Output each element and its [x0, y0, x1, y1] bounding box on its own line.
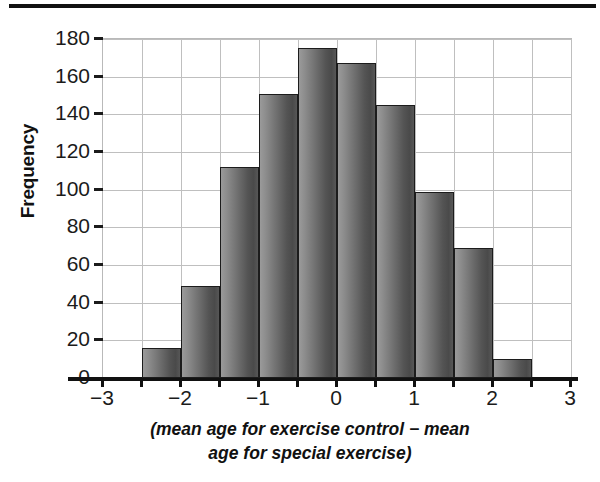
y-axis-tick-label: 40 [26, 291, 90, 312]
gridline-vertical [571, 39, 572, 378]
y-axis-tick-label: 100 [26, 178, 90, 199]
y-axis-tick [94, 188, 103, 191]
x-axis-tick [530, 377, 533, 387]
histogram-bar [142, 348, 181, 378]
histogram-bar [220, 167, 259, 378]
y-axis-tick [94, 225, 103, 228]
y-axis-tick-label: 60 [26, 253, 90, 274]
bars-layer [103, 39, 571, 378]
histogram-bar [298, 48, 337, 378]
y-axis-tick-label: 20 [26, 328, 90, 349]
y-axis-tick-label: 180 [26, 27, 90, 48]
y-axis-tick [94, 37, 103, 40]
histogram-bar [259, 94, 298, 378]
y-axis-tick [94, 75, 103, 78]
y-axis-tick [94, 112, 103, 115]
histogram-bar [337, 63, 376, 378]
y-axis-tick-label: 160 [26, 65, 90, 86]
histogram-bar [454, 248, 493, 378]
x-axis-caption-line-1: (mean age for exercise control − mean [60, 418, 560, 442]
x-axis-tick-label: 3 [540, 386, 600, 409]
x-axis-tick [374, 377, 377, 387]
x-axis-tick-label: −3 [72, 386, 132, 409]
x-axis-tick-label: −2 [150, 386, 210, 409]
top-rule-divider [9, 4, 596, 8]
y-axis-tick-label: 120 [26, 140, 90, 161]
histogram-bar [415, 192, 454, 378]
y-axis-tick [94, 263, 103, 266]
plot-area [102, 38, 572, 378]
x-axis-tick-label: 2 [462, 386, 522, 409]
y-axis-tick [94, 150, 103, 153]
x-axis-tick-label: 0 [306, 386, 366, 409]
y-axis-tick-label: 140 [26, 102, 90, 123]
y-axis-tick-labels: 020406080100120140160180 [22, 0, 90, 482]
x-axis-caption: (mean age for exercise control − mean ag… [60, 418, 560, 465]
x-axis-caption-line-2: age for special exercise) [60, 442, 560, 466]
histogram-figure: Frequency 020406080100120140160180 −3−2−… [0, 0, 600, 482]
x-axis-tick [452, 377, 455, 387]
histogram-bar [376, 105, 415, 378]
x-axis-tick-label: 1 [384, 386, 444, 409]
x-axis-tick [296, 377, 299, 387]
y-axis-tick-label: 80 [26, 215, 90, 236]
y-axis-tick [94, 338, 103, 341]
y-axis-tick [94, 301, 103, 304]
x-axis-tick-label: −1 [228, 386, 288, 409]
x-axis-tick [218, 377, 221, 387]
x-axis-tick [140, 377, 143, 387]
histogram-bar [493, 359, 532, 378]
histogram-bar [181, 286, 220, 378]
